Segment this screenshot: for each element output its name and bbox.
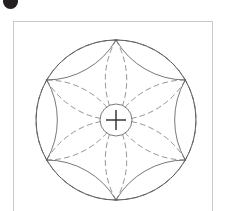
rosette-solid-arc bbox=[47, 160, 116, 200]
rosette-dashed-arc bbox=[105, 40, 185, 160]
rosette-solid-arc bbox=[116, 40, 185, 80]
rosette-solid-inner-arc bbox=[175, 80, 186, 160]
header-bar bbox=[0, 0, 226, 13]
rosette-dashed-arc bbox=[47, 80, 127, 200]
rosette-dashed-arc bbox=[36, 40, 116, 160]
rosette-diagram bbox=[14, 22, 213, 211]
rosette-solid-arc bbox=[185, 80, 196, 160]
rosette-solid-inner-arc bbox=[47, 160, 116, 200]
rosette-solid-inner-arc bbox=[116, 40, 185, 80]
drawing-frame bbox=[13, 21, 213, 211]
rosette-dashed-arc bbox=[47, 40, 127, 160]
center-crosshair-marker bbox=[100, 104, 132, 136]
rosette-dashed-arc bbox=[116, 80, 196, 200]
rosette-dashed-arc bbox=[116, 40, 196, 160]
rosette-dashed-arc bbox=[47, 160, 186, 200]
rosette-dashed-arc bbox=[47, 40, 186, 80]
rosette-solid-arc bbox=[36, 80, 47, 160]
rosette-dashed-arc bbox=[36, 80, 116, 200]
rosette-solid-inner-arc bbox=[47, 80, 58, 160]
rosette-dashed-arc bbox=[105, 80, 185, 200]
dark-circle-badge-icon bbox=[3, 0, 18, 9]
